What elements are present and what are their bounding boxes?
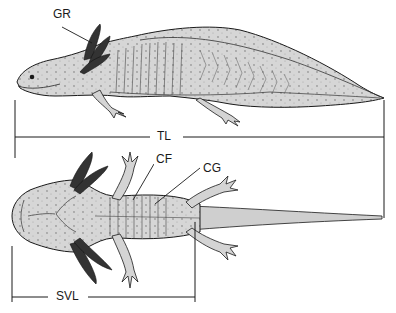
- hind-leg-left-ventral: [186, 176, 238, 208]
- label-tl: TL: [155, 130, 173, 143]
- gr-leader-line: [62, 27, 92, 43]
- lateral-view: [17, 24, 384, 126]
- eye: [30, 75, 35, 80]
- ventral-view: [12, 152, 382, 288]
- hind-leg-right-ventral: [186, 228, 238, 260]
- label-cg: CG: [201, 162, 223, 175]
- axolotl-diagram: GR TL CF CG SVL: [0, 0, 396, 313]
- label-cf: CF: [154, 153, 174, 166]
- front-leg-left-ventral: [112, 152, 138, 200]
- front-leg-right-ventral: [112, 234, 138, 288]
- label-svl: SVL: [54, 290, 81, 303]
- ventral-tail: [190, 206, 382, 230]
- label-gr: GR: [51, 8, 73, 21]
